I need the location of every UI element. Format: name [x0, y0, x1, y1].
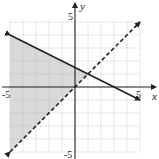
x-min-tick-label: -5	[2, 89, 10, 100]
y-axis-label: y	[79, 0, 85, 12]
inequality-graph: -5 5 5 -5 x y	[0, 0, 159, 159]
y-max-tick-label: 5	[68, 11, 73, 22]
x-max-tick-label: 5	[136, 89, 141, 100]
y-min-tick-label: -5	[64, 149, 72, 159]
x-axis-label: x	[151, 90, 157, 102]
